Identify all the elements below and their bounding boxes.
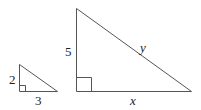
large-triangle: 5 y x bbox=[65, 9, 192, 109]
large-hypotenuse-label: y bbox=[138, 40, 146, 55]
small-vertical-leg-label: 2 bbox=[9, 72, 16, 87]
large-triangle-outline bbox=[77, 9, 192, 92]
small-right-angle-marker bbox=[20, 86, 26, 92]
large-vertical-leg-label: 5 bbox=[65, 44, 72, 59]
diagram-canvas: 2 3 5 y x bbox=[0, 0, 201, 110]
large-right-angle-marker bbox=[77, 78, 92, 92]
similar-triangles-diagram: 2 3 5 y x bbox=[0, 0, 201, 110]
small-horizontal-leg-label: 3 bbox=[35, 93, 42, 108]
small-triangle: 2 3 bbox=[9, 65, 58, 109]
large-horizontal-leg-label: x bbox=[129, 93, 136, 108]
